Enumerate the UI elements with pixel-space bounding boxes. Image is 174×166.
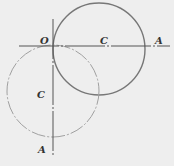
label-h-center: C (100, 36, 108, 46)
label-v-end: A (38, 145, 46, 155)
label-origin: O (40, 36, 49, 46)
label-h-end: A (155, 36, 163, 46)
label-v-center: C (37, 90, 45, 100)
solid-circle (53, 3, 145, 95)
diagram-canvas: O C A C A (0, 0, 174, 166)
diagram-svg (0, 0, 174, 166)
